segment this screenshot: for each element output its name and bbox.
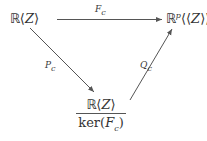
node-domain: ℝ⟨Z⟩ bbox=[10, 12, 39, 25]
kernel-operator: ker bbox=[78, 115, 100, 130]
fraction-bar bbox=[76, 113, 125, 114]
map-F: F bbox=[105, 115, 114, 130]
edge-label-Qc: Qc bbox=[140, 60, 152, 70]
blackboard-R-icon: ℝ bbox=[166, 11, 176, 26]
edge-label-Pc: Pc bbox=[45, 60, 56, 70]
blackboard-R-icon: ℝ bbox=[87, 97, 97, 112]
angle-bracket-close: ⟩ bbox=[34, 11, 39, 26]
variable-Z: Z bbox=[191, 11, 200, 26]
double-angle-bracket-open: ⟨⟨ bbox=[181, 11, 191, 26]
double-angle-bracket-close: ⟩⟩ bbox=[200, 11, 207, 26]
variable-Z: Z bbox=[25, 11, 34, 26]
node-codomain: ℝp⟨⟨Z⟩⟩ bbox=[166, 12, 207, 25]
arrow-left-Pc bbox=[30, 28, 94, 92]
blackboard-R-icon: ℝ bbox=[10, 11, 20, 26]
angle-bracket-close: ⟩ bbox=[110, 97, 115, 112]
edge-label-subscript: c bbox=[101, 8, 105, 17]
edge-label-subscript: c bbox=[51, 64, 55, 73]
edge-label-subscript: c bbox=[147, 64, 151, 73]
edge-label-Fc: Fc bbox=[95, 4, 106, 14]
node-quotient: ℝ⟨Z⟩ ker(Fc) bbox=[69, 98, 133, 129]
fraction: ℝ⟨Z⟩ ker(Fc) bbox=[76, 98, 125, 129]
fraction-denominator: ker(Fc) bbox=[76, 115, 125, 130]
fraction-numerator: ℝ⟨Z⟩ bbox=[76, 98, 125, 113]
paren-close: ) bbox=[119, 115, 124, 130]
commutative-diagram: ℝ⟨Z⟩ ℝp⟨⟨Z⟩⟩ ℝ⟨Z⟩ ker(Fc) Fc Pc Qc bbox=[0, 0, 207, 141]
